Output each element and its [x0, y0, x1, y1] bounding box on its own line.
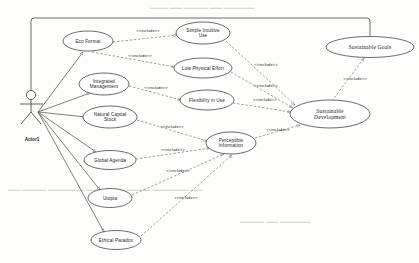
association-actor-to-integrated-management — [38, 93, 90, 112]
use-case-ethical-paradox[interactable]: Ethical Paradox — [91, 231, 141, 250]
dependency-inc-low-physical-effort-sustainable-dev — [231, 72, 293, 108]
use-case-perceptible-information[interactable]: PerceptibleInformation — [206, 132, 256, 154]
dependency-inc-eco-format-simple-intuitive-use — [113, 35, 177, 42]
use-case-label: Integrated — [93, 79, 115, 84]
use-case-label: Management — [90, 84, 119, 89]
dependency-inc-flexibility-in-use-sustainable-dev — [233, 103, 291, 112]
association-actor-to-eco-format — [38, 52, 83, 112]
association-actor-to-natural-capital-stock — [38, 112, 86, 117]
include-label-inc-flexibility-in-use-sustainable-dev: <<include>> — [253, 97, 277, 102]
use-case-label: Simple Intuitive — [186, 28, 220, 33]
dependency-inc-simple-intuitive-use-sustainable-dev — [226, 41, 295, 105]
association-actor-to-ethical-paradox — [38, 112, 104, 232]
include-label-inc-simple-intuitive-use-sustainable-dev: <<include>> — [254, 62, 278, 67]
include-label-inc-perceptible-sustainable-dev: <<include>> — [266, 127, 290, 132]
include-label-inc-natural-capital-stock-perceptible: <<include>> — [160, 124, 184, 129]
use-case-low-physical-effort[interactable]: Low Physical Effort — [174, 58, 232, 78]
actor-label: Actor1 — [25, 137, 40, 142]
use-case-label: Natural Capital — [94, 112, 127, 117]
use-case-diagram-canvas: ▁▁▁ ▁▁ ▁▁▁▁ ▁▁ ▁▁▁▁▁ ▁▁ ▁▁▁▁ ▁▁▁▁▁▁ ▁▁ ▁… — [0, 0, 419, 263]
use-case-label: Ethical Paradox — [99, 238, 134, 243]
actor-figure[interactable]: Actor1 — [20, 90, 43, 142]
use-case-label: Development — [314, 114, 346, 120]
use-case-label: Global Agenda — [94, 158, 126, 163]
use-case-global-agenda[interactable]: Global Agenda — [84, 151, 136, 170]
include-label-inc-integrated-management-flexibility-in-use: <<include>> — [144, 85, 168, 90]
diagram-svg: Actor1 Eco FormatIntegratedManagementNat… — [0, 0, 419, 263]
include-label-inc-ethical-paradox-perceptible: <<include>> — [174, 195, 198, 200]
actor-leg-left — [21, 112, 31, 124]
use-case-label: Stock — [104, 117, 117, 122]
use-case-eco-format[interactable]: Eco Format — [63, 31, 113, 51]
use-case-sustainable-goals[interactable]: Sustainable Goals — [326, 37, 414, 58]
use-case-label: Eco Format — [75, 39, 101, 44]
use-case-label: Information — [219, 143, 244, 148]
use-case-natural-capital-stock[interactable]: Natural CapitalStock — [83, 106, 137, 128]
use-case-integrated-management[interactable]: IntegratedManagement — [79, 73, 129, 95]
use-case-simple-intuitive-use[interactable]: Simple IntuitiveUse — [176, 22, 230, 44]
use-case-label: Flexibility in Use — [189, 98, 225, 103]
include-label-inc-low-physical-effort-sustainable-dev: <<include>> — [254, 83, 278, 88]
use-case-flexibility-in-use[interactable]: Flexibility in Use — [180, 90, 234, 110]
include-label-inc-eco-format-simple-intuitive-use: <<include>> — [136, 28, 160, 33]
use-case-label: Utopia — [103, 196, 117, 201]
use-case-sustainable-development[interactable]: SustainableDevelopment — [290, 100, 370, 128]
include-label-inc-utopia-perceptible: <<include>> — [166, 168, 190, 173]
include-label-inc-eco-format-low-physical-effort: <<include>> — [128, 53, 152, 58]
use-case-label: Low Physical Effort — [182, 66, 224, 71]
use-case-utopia[interactable]: Utopia — [88, 189, 132, 208]
include-label-inc-global-agenda-perceptible: <<include>> — [161, 147, 185, 152]
use-case-label: Sustainable Goals — [349, 44, 392, 50]
use-case-label: Sustainable — [316, 108, 344, 114]
use-case-label: Perceptible — [219, 138, 244, 143]
include-label-inc-sustainable-dev-sustainable-goals: <<include>> — [343, 76, 367, 81]
use-case-label: Use — [199, 33, 208, 38]
actor-head — [26, 90, 35, 99]
use-case-nodes: Eco FormatIntegratedManagementNatural Ca… — [63, 22, 414, 250]
